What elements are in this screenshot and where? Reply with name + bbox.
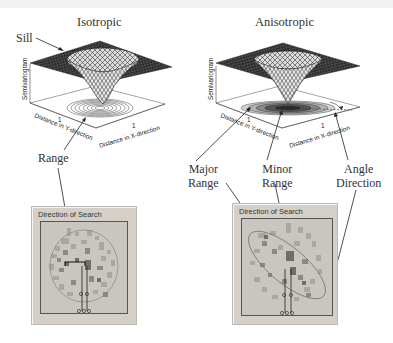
isotropic-search-grid [40,221,128,314]
sill-arrow [36,38,64,51]
isotropic-panel-title: Direction of Search [38,210,104,219]
isotropic-handle-left-icon [77,309,80,312]
isotropic-handle-center-icon [82,309,85,312]
anisotropic-handle-left-icon [280,311,283,314]
major-range-leader-line [226,183,240,203]
angle-direction-leader-line [338,190,356,260]
anisotropic-z-axis-label: Semivariogram [207,58,215,100]
anisotropic-search-panel: Direction of Search [232,203,338,325]
anisotropic-panel-title: Direction of Search [239,207,305,216]
isotropic-y-tick: 1 [58,116,62,123]
isotropic-search-panel: Direction of Search [31,206,137,325]
isotropic-range-contours [67,99,133,117]
isotropic-handle-right-icon [87,309,90,312]
anisotropic-handle-center-icon [285,311,288,314]
isotropic-z-axis-label: Semivariogram [21,58,29,100]
isotropic-x-axis-label: Distance in X-direction [98,124,161,149]
isotropic-semivariogram-plot: Semivariogram Distance in Y-direction Di… [21,41,172,149]
isotropic-x-tick: 1 [132,122,136,129]
anisotropic-range-ellipse [242,220,332,309]
anisotropic-y-tick: 1 [247,116,251,123]
anisotropic-x-tick: 1 [321,122,325,129]
anisotropic-search-grid [241,218,333,316]
minor-range-leader-line [275,184,279,203]
anisotropic-semivariogram-plot: Semivariogram Distance in Y-direction Di… [207,43,360,149]
angle-direction-arrow [334,112,348,160]
